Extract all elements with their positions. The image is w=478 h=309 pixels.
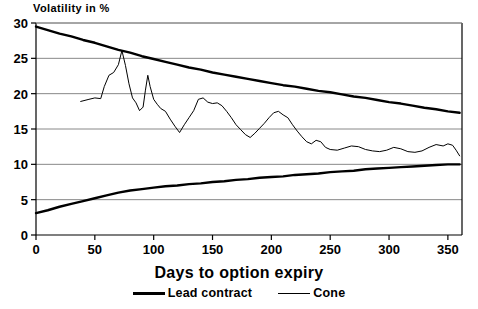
y-tick-label-15: 15	[0, 123, 28, 136]
axis-ticks-group	[31, 23, 448, 240]
x-tick-label-100: 100	[134, 243, 174, 256]
legend-label-cone: Cone	[313, 286, 345, 300]
y-tick-label-0: 0	[0, 229, 28, 242]
x-tick-label-350: 350	[428, 243, 468, 256]
y-tick-label-5: 5	[0, 194, 28, 207]
legend-line-thin-icon	[278, 293, 310, 294]
gridlines-group	[36, 23, 462, 200]
x-tick-label-150: 150	[193, 243, 233, 256]
y-tick-label-20: 20	[0, 88, 28, 101]
volatility-cone-chart: Volatility in % 051015202530 05010015020…	[0, 0, 478, 309]
series-line-lead-contract-lower	[36, 164, 460, 213]
legend-label-lead-contract: Lead contract	[168, 286, 253, 300]
x-tick-label-200: 200	[251, 243, 291, 256]
x-axis-title: Days to option expiry	[0, 264, 478, 282]
chart-plot-area	[0, 0, 478, 309]
chart-legend: Lead contract Cone	[0, 286, 478, 300]
legend-line-thick-icon	[133, 292, 165, 295]
y-tick-label-10: 10	[0, 158, 28, 171]
legend-item-lead-contract: Lead contract	[133, 286, 253, 300]
x-tick-label-50: 50	[75, 243, 115, 256]
x-tick-label-250: 250	[310, 243, 350, 256]
series-line-lead-contract	[36, 27, 460, 113]
x-tick-label-300: 300	[369, 243, 409, 256]
y-tick-label-30: 30	[0, 17, 28, 30]
series-group	[36, 27, 460, 214]
y-tick-label-25: 25	[0, 52, 28, 65]
x-tick-label-0: 0	[16, 243, 56, 256]
legend-item-cone: Cone	[278, 286, 345, 300]
